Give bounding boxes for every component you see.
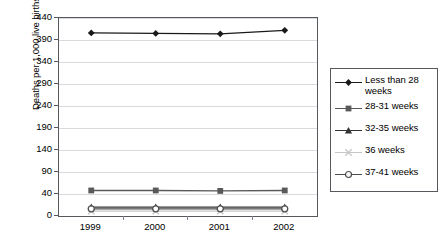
y-tick-label: 440 xyxy=(24,12,52,22)
x-tick-label: 2000 xyxy=(134,222,176,232)
data-series-layer xyxy=(59,18,317,216)
series-0 xyxy=(88,27,288,37)
legend-marker-filled-diamond-icon xyxy=(335,76,362,88)
legend-marker-light-cross-icon xyxy=(335,146,362,158)
legend-marker-glyph xyxy=(344,126,353,135)
chart-figure: Deaths per 1,000 live births 04090140190… xyxy=(0,0,441,243)
data-point-open-circle xyxy=(88,206,94,212)
y-tick-label: 140 xyxy=(24,144,52,154)
legend-label: 28-31 weeks xyxy=(362,101,418,112)
legend-marker-glyph xyxy=(344,104,353,113)
legend-item[interactable]: Less than 28 weeks xyxy=(335,75,437,96)
data-point-open-circle xyxy=(346,172,352,178)
data-point-filled-diamond xyxy=(345,79,352,86)
legend-marker-filled-square-icon xyxy=(335,102,362,114)
legend-item[interactable]: 37-41 weeks xyxy=(335,167,437,180)
y-tick-label: 0 xyxy=(24,210,52,220)
data-point-open-circle xyxy=(282,206,288,212)
series-1 xyxy=(88,188,287,194)
y-tick-label: 90 xyxy=(24,166,52,176)
legend-marker-open-circle-icon xyxy=(335,168,362,180)
x-tick-mark xyxy=(252,216,253,220)
data-point-filled-square xyxy=(153,188,159,194)
legend-marker-filled-triangle-icon xyxy=(335,124,362,136)
legend-label: 32-35 weeks xyxy=(362,123,418,134)
data-point-filled-diamond xyxy=(152,30,159,37)
legend-item[interactable]: 32-35 weeks xyxy=(335,123,437,136)
data-point-filled-square xyxy=(88,188,94,194)
data-point-filled-square xyxy=(346,106,352,112)
y-tick-label: 190 xyxy=(24,122,52,132)
data-point-filled-square xyxy=(217,188,223,194)
y-tick-label: 240 xyxy=(24,100,52,110)
y-tick-label: 290 xyxy=(24,78,52,88)
y-tick-label: 40 xyxy=(24,188,52,198)
legend-marker-glyph xyxy=(344,78,353,87)
x-tick-label: 1999 xyxy=(69,222,111,232)
data-point-light-cross xyxy=(345,149,351,155)
legend-item[interactable]: 28-31 weeks xyxy=(335,101,437,114)
series-line xyxy=(91,30,285,34)
legend-label: 37-41 weeks xyxy=(362,167,418,178)
data-point-filled-diamond xyxy=(217,30,224,37)
data-point-filled-triangle xyxy=(345,127,352,133)
chart-legend: Less than 28 weeks28-31 weeks32-35 weeks… xyxy=(330,68,438,192)
x-tick-mark xyxy=(187,216,188,220)
y-tick-label: 340 xyxy=(24,56,52,66)
y-tick-label: 390 xyxy=(24,34,52,44)
plot-area xyxy=(58,17,318,217)
data-point-open-circle xyxy=(153,206,159,212)
legend-label: 36 weeks xyxy=(362,145,405,156)
legend-marker-glyph xyxy=(344,170,353,179)
legend-marker-glyph xyxy=(344,148,353,157)
data-point-open-circle xyxy=(217,206,223,212)
x-tick-mark xyxy=(123,216,124,220)
legend-label: Less than 28 weeks xyxy=(362,75,437,96)
data-point-filled-diamond xyxy=(281,27,288,34)
data-point-filled-square xyxy=(282,188,288,194)
x-tick-label: 2001 xyxy=(198,222,240,232)
legend-item[interactable]: 36 weeks xyxy=(335,145,437,158)
data-point-filled-diamond xyxy=(88,30,95,37)
x-tick-label: 2002 xyxy=(263,222,305,232)
